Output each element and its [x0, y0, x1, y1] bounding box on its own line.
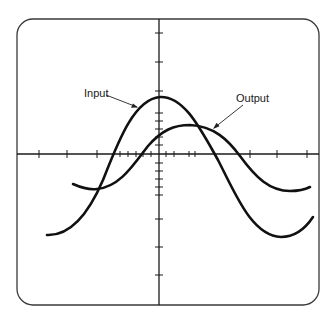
input-leader-arrow: [106, 95, 138, 108]
output-waveform: [73, 125, 310, 191]
input-label: Input: [84, 87, 108, 99]
screen-frame: [17, 19, 319, 305]
output-label: Output: [236, 92, 269, 104]
oscilloscope-screen: Input Output: [0, 0, 333, 324]
input-waveform: [47, 97, 313, 237]
output-leader-arrow: [213, 105, 243, 129]
